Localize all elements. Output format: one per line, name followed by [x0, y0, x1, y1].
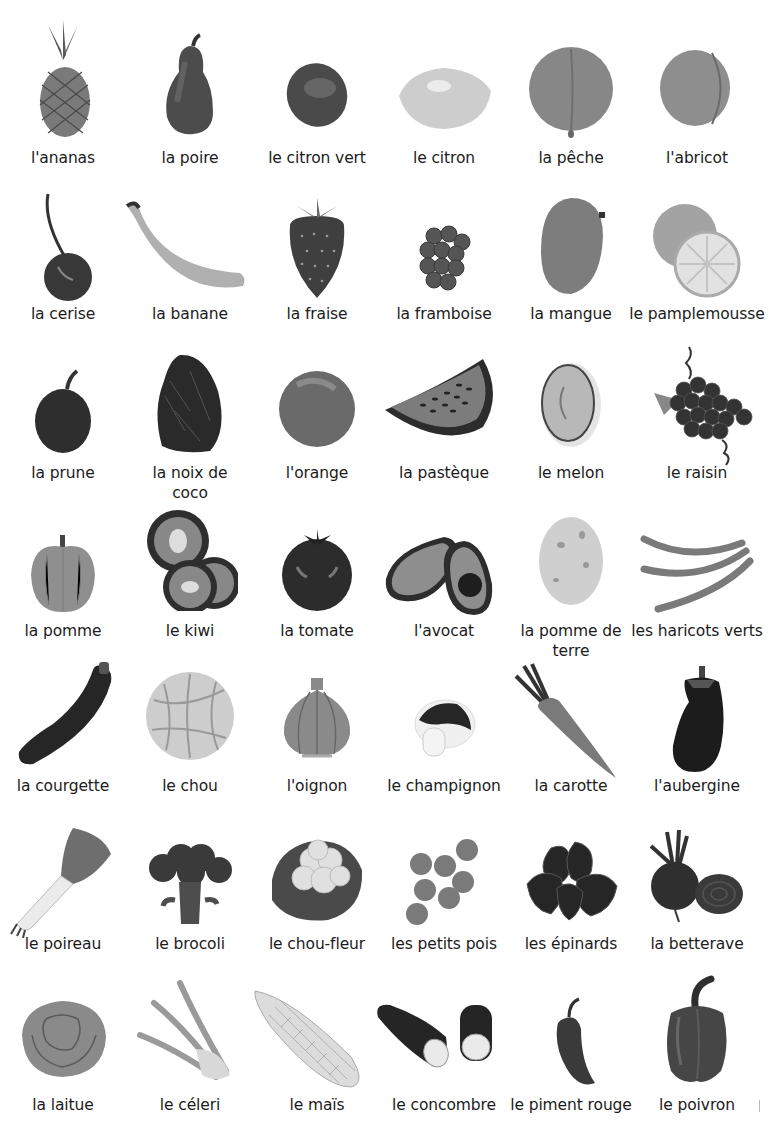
cauliflower-icon: [254, 830, 380, 924]
label-strawberry: la fraise: [244, 304, 390, 324]
label-banana: la banane: [117, 304, 263, 324]
label-cauliflower: le chou-fleur: [244, 934, 390, 954]
label-cherry: la cerise: [0, 304, 136, 324]
potato-icon: [508, 515, 634, 607]
label-peach: la pêche: [498, 148, 644, 168]
label-grapes: le raisin: [624, 463, 769, 483]
label-watermelon: la pastèque: [371, 463, 517, 483]
label-lemon: le citron: [371, 148, 517, 168]
page-edge-mark: [759, 1100, 760, 1112]
cabbage-icon: [127, 670, 253, 762]
melon-icon: [508, 359, 634, 451]
orange-icon: [254, 367, 380, 451]
avocado-icon: [377, 529, 507, 619]
label-pear: la poire: [117, 148, 263, 168]
label-plum: la prune: [0, 463, 136, 483]
coconut-icon: [127, 351, 253, 455]
label-kiwi: le kiwi: [117, 621, 263, 641]
label-coconut: la noix de: [117, 463, 263, 483]
corn-icon: [240, 987, 380, 1091]
label-leek: le poireau: [0, 934, 136, 954]
label-melon: le melon: [498, 463, 644, 483]
label-avocado: l'avocat: [371, 621, 517, 641]
plum-icon: [0, 369, 126, 455]
label-cabbage: le chou: [117, 776, 263, 796]
lemon-icon: [381, 56, 507, 134]
label-raspberry: la framboise: [371, 304, 517, 324]
label-apple: la pomme: [0, 621, 136, 641]
label-carrot: la carotte: [498, 776, 644, 796]
onion-icon: [254, 676, 380, 760]
eggplant-icon: [634, 666, 760, 774]
label-peas: les petits pois: [371, 934, 517, 954]
watermelon-icon: [375, 355, 507, 449]
grapefruit-icon: [634, 200, 760, 300]
pear-icon: [127, 32, 253, 137]
label-chili-pepper: le piment rouge: [498, 1095, 644, 1115]
lime-icon: [254, 58, 380, 133]
label-pineapple: l'ananas: [0, 148, 136, 168]
celery-icon: [123, 979, 253, 1083]
cherry-icon: [0, 192, 126, 302]
label-lime: le citron vert: [244, 148, 390, 168]
label-beetroot: la betterave: [624, 934, 769, 954]
label-broccoli: le brocoli: [117, 934, 263, 954]
pineapple-icon: [0, 20, 126, 140]
chili-pepper-icon: [508, 993, 634, 1091]
label-onion: l'oignon: [244, 776, 390, 796]
grapes-icon: [634, 345, 760, 470]
apple-icon: [0, 535, 126, 615]
label-zucchini: la courgette: [0, 776, 136, 796]
label-orange: l'orange: [244, 463, 390, 483]
label-potato-line2: terre: [498, 641, 644, 661]
label-celery: le céleri: [117, 1095, 263, 1115]
mango-icon: [508, 196, 634, 296]
bell-pepper-icon: [634, 975, 760, 1087]
carrot-icon: [500, 662, 634, 780]
label-mango: la mangue: [498, 304, 644, 324]
label-tomato: la tomate: [244, 621, 390, 641]
mushroom-icon: [381, 696, 507, 760]
label-bell-pepper: le poivron: [624, 1095, 769, 1115]
green-beans-icon: [634, 533, 760, 615]
label-coconut-line2: coco: [117, 483, 263, 503]
tomato-icon: [254, 527, 380, 613]
beetroot-icon: [630, 826, 760, 926]
lettuce-icon: [0, 995, 126, 1081]
label-green-beans: les haricots verts: [624, 621, 769, 641]
zucchini-icon: [0, 660, 126, 768]
peas-icon: [381, 838, 507, 928]
banana-icon: [122, 198, 253, 298]
spinach-icon: [508, 838, 634, 922]
kiwi-icon: [127, 507, 253, 611]
label-corn: le maïs: [244, 1095, 390, 1115]
label-apricot: l'abricot: [624, 148, 769, 168]
label-spinach: les épinards: [498, 934, 644, 954]
label-lettuce: la laitue: [0, 1095, 136, 1115]
label-cucumber: le concombre: [371, 1095, 517, 1115]
leek-icon: [0, 824, 126, 938]
label-mushroom: le champignon: [371, 776, 517, 796]
strawberry-icon: [254, 196, 380, 300]
label-eggplant: l'aubergine: [624, 776, 769, 796]
broccoli-icon: [127, 842, 253, 926]
apricot-icon: [634, 48, 760, 128]
label-grapefruit: le pamplemousse: [624, 304, 769, 324]
peach-icon: [508, 44, 634, 139]
raspberry-icon: [381, 222, 507, 296]
label-potato: la pomme de: [498, 621, 644, 641]
cucumber-icon: [365, 997, 507, 1073]
